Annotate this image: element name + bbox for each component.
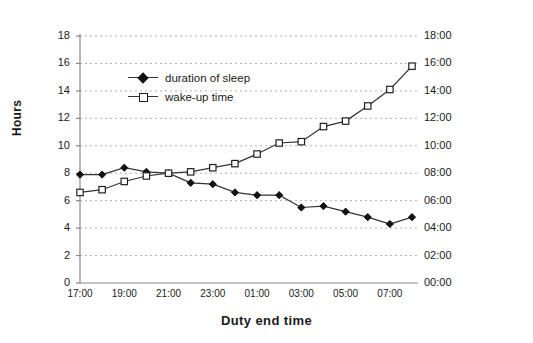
data-point-filled-diamond <box>276 192 283 199</box>
legend-item-wake-up-time: wake-up time <box>128 87 250 106</box>
data-point-open-square <box>210 165 216 171</box>
series-line <box>80 168 412 224</box>
data-point-open-square <box>409 63 415 69</box>
data-point-filled-diamond <box>320 203 327 210</box>
data-point-open-square <box>77 189 83 195</box>
filled-diamond-marker-icon <box>128 72 158 84</box>
data-point-open-square <box>232 160 238 166</box>
data-point-open-square <box>387 86 393 92</box>
data-point-filled-diamond <box>187 179 194 186</box>
data-point-open-square <box>365 103 371 109</box>
data-point-filled-diamond <box>209 181 216 188</box>
legend-label: duration of sleep <box>165 72 250 84</box>
data-point-open-square <box>342 118 348 124</box>
data-point-open-square <box>165 170 171 176</box>
data-point-filled-diamond <box>408 214 415 221</box>
data-point-filled-diamond <box>364 214 371 221</box>
data-point-open-square <box>276 140 282 146</box>
data-point-open-square <box>121 178 127 184</box>
data-point-filled-diamond <box>253 192 260 199</box>
data-point-filled-diamond <box>231 189 238 196</box>
data-point-open-square <box>99 186 105 192</box>
data-point-open-square <box>187 169 193 175</box>
data-point-filled-diamond <box>386 220 393 227</box>
chart-legend: duration of sleep wake-up time <box>128 68 250 106</box>
legend-label: wake-up time <box>165 91 233 103</box>
chart-container: Hours Duty end time 024681012141618 00:0… <box>0 0 533 343</box>
data-point-filled-diamond <box>298 204 305 211</box>
legend-item-duration-of-sleep: duration of sleep <box>128 68 250 87</box>
data-point-filled-diamond <box>121 164 128 171</box>
data-point-filled-diamond <box>342 208 349 215</box>
data-point-open-square <box>254 151 260 157</box>
data-point-filled-diamond <box>76 171 83 178</box>
data-point-filled-diamond <box>99 171 106 178</box>
data-point-open-square <box>298 138 304 144</box>
plot-area <box>0 0 533 343</box>
data-point-open-square <box>143 173 149 179</box>
open-square-marker-icon <box>128 91 158 103</box>
data-point-open-square <box>320 123 326 129</box>
